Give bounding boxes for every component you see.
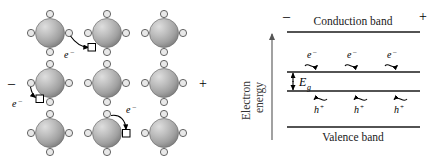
valence-band-label: Valence band [322, 131, 384, 143]
valence-electron-south [160, 48, 167, 55]
hole-symbol: h [314, 104, 319, 115]
atom-core [150, 119, 179, 148]
valence-electron-north [46, 110, 53, 117]
valence-hole-3: h + [394, 98, 407, 115]
valence-electron-north [160, 10, 167, 17]
valence-electron-east [179, 29, 186, 36]
electron-symbol: e [64, 49, 69, 60]
band-negative-terminal: – [282, 9, 291, 24]
band-gap-label: E [298, 75, 307, 89]
lattice-negative-terminal: – [7, 76, 16, 91]
atom-core [36, 69, 65, 98]
electron-charge-sup: – [312, 48, 317, 56]
electron-energy-axis-label-line1: Electron [240, 81, 252, 120]
valence-electron-west [27, 79, 34, 86]
hole-square-1 [88, 44, 96, 52]
atom-core [36, 19, 65, 48]
valence-electron-west [141, 79, 148, 86]
atom-r3c1 [27, 110, 72, 155]
electron-symbol: e [307, 49, 312, 60]
band-gap-subscript: g [307, 83, 311, 92]
electron-symbol: e [347, 49, 352, 60]
valence-electron-west [141, 29, 148, 36]
electron-energy-axis-label-line2: energy [253, 82, 266, 113]
valence-electron-south [46, 48, 53, 55]
valence-electron-east [179, 129, 186, 136]
atom-core [150, 69, 179, 98]
electron-charge-sup: – [70, 48, 75, 56]
atom-core [93, 119, 122, 148]
lattice-positive-terminal: + [199, 76, 207, 91]
atom-core [36, 119, 65, 148]
conduction-electron-1: e – [305, 48, 318, 67]
valence-electron-south [103, 148, 110, 155]
valence-electron-east [179, 79, 186, 86]
atom-r3c3 [141, 110, 186, 155]
semiconductor-figure: e – e – e – – + Electron [0, 0, 433, 160]
hole-symbol: h [394, 104, 399, 115]
atom-core [93, 69, 122, 98]
valence-electron-south [103, 48, 110, 55]
valence-electron-west [141, 129, 148, 136]
valence-electron-south [160, 98, 167, 105]
band-positive-terminal: + [419, 9, 427, 24]
valence-electron-north [103, 60, 110, 67]
electron-symbol: e [12, 98, 17, 109]
electron-hop-label-1: e – [64, 48, 75, 61]
valence-electron-east [65, 29, 72, 36]
conduction-electron-2: e – [345, 48, 358, 67]
electron-charge-sup: – [132, 103, 137, 111]
valence-electron-east [65, 79, 72, 86]
electron-charge-sup: – [392, 48, 397, 56]
hole-square-3 [123, 130, 131, 138]
electron-symbol: e [126, 104, 131, 115]
atom-r2c1 [27, 60, 72, 105]
electron-symbol: e [387, 49, 392, 60]
valence-electron-south [160, 148, 167, 155]
valence-electron-west [27, 29, 34, 36]
atom-r1c3 [141, 10, 186, 55]
electron-hop-arrow-2 [31, 87, 36, 98]
valence-electron-south [46, 148, 53, 155]
electron-hop-label-3: e – [126, 103, 137, 116]
atom-r2c3 [141, 60, 186, 105]
valence-electron-north [160, 110, 167, 117]
valence-electron-north [46, 10, 53, 17]
valence-electron-west [84, 129, 91, 136]
hole-square-2 [36, 95, 44, 103]
valence-electron-north [103, 10, 110, 17]
valence-electron-south [46, 98, 53, 105]
valence-electron-west [84, 79, 91, 86]
electron-hop-label-2: e – [12, 97, 23, 110]
valence-electron-east [122, 79, 129, 86]
electron-charge-sup: – [18, 97, 23, 105]
hole-charge-sup: + [320, 103, 324, 111]
lattice-panel: e – e – e – – + [7, 10, 207, 155]
valence-electron-north [160, 60, 167, 67]
valence-electron-east [65, 129, 72, 136]
valence-hole-1: h + [314, 98, 327, 115]
band-diagram-panel: Electron energy – + Conduction band e – … [240, 9, 427, 143]
conduction-band-label: Conduction band [314, 15, 393, 27]
hole-symbol: h [354, 104, 359, 115]
electron-hop-arrow-1 [71, 36, 89, 48]
atom-r2c2 [84, 60, 129, 105]
conduction-electron-3: e – [385, 48, 398, 67]
valence-electron-east [122, 29, 129, 36]
hole-charge-sup: + [360, 103, 364, 111]
hole-charge-sup: + [400, 103, 404, 111]
valence-electron-north [103, 110, 110, 117]
valence-hole-2: h + [354, 98, 367, 115]
atom-r3c2 [84, 110, 121, 155]
valence-electron-west [27, 129, 34, 136]
valence-electron-north [46, 60, 53, 67]
atom-core [93, 19, 122, 48]
atom-core [150, 19, 179, 48]
valence-electron-west [84, 29, 91, 36]
valence-electron-south [103, 98, 110, 105]
electron-charge-sup: – [352, 48, 357, 56]
